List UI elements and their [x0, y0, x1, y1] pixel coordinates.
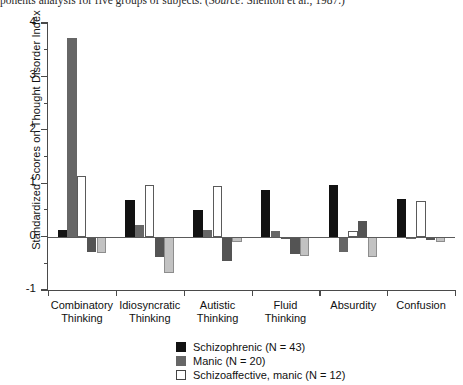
bar: [300, 237, 309, 256]
legend-label: Schizoaffective, manic (N = 12): [193, 369, 345, 381]
bar: [145, 185, 154, 237]
bar: [339, 237, 348, 252]
x-category-label-line: Thinking: [116, 312, 184, 325]
legend-item: Schizoaffective, manic (N = 12): [176, 368, 456, 382]
legend-label: Manic (N = 20): [193, 355, 265, 367]
zero-baseline: [48, 237, 455, 238]
y-tick-mark: [41, 129, 48, 130]
x-category-label-line: Confusion: [387, 299, 455, 312]
x-category-label-line: Thinking: [252, 312, 320, 325]
bar: [261, 190, 270, 237]
x-category-label: CombinatoryThinking: [48, 299, 116, 324]
y-tick-mark: [41, 289, 48, 290]
bar: [155, 237, 164, 257]
bar: [290, 237, 299, 254]
legend-label: Schizophrenic (N = 43): [193, 341, 305, 353]
chart-legend: Schizophrenic (N = 43)Manic (N = 20)Schi…: [176, 340, 456, 382]
x-category-label-line: Autistic: [184, 299, 252, 312]
bar: [213, 186, 222, 237]
bar-chart: Standardized Scores on Thought Disorder …: [0, 14, 463, 314]
legend-swatch: [176, 370, 186, 380]
bar: [193, 210, 202, 237]
legend-item: Manic (N = 20): [176, 354, 456, 368]
x-category-label: IdiosyncraticThinking: [116, 299, 184, 324]
legend-item: Schizophrenic (N = 43): [176, 340, 456, 354]
x-tick-mark: [252, 290, 253, 296]
bar: [87, 237, 96, 252]
bar: [97, 237, 106, 253]
plot-area: [48, 23, 455, 290]
x-category-label-line: Fluid: [252, 299, 320, 312]
bar: [368, 237, 377, 257]
y-tick-label: -1: [4, 282, 36, 294]
x-tick-mark: [184, 290, 185, 296]
x-category-label: Confusion: [387, 299, 455, 312]
legend-swatch: [176, 342, 186, 352]
y-tick-label: 1: [4, 175, 36, 187]
bar: [67, 38, 76, 237]
bar: [164, 237, 173, 273]
figure-caption: ponents analysis for five groups of subj…: [0, 0, 463, 12]
bar: [358, 221, 367, 237]
x-category-label: Absurdity: [319, 299, 387, 312]
x-category-label-line: Thinking: [184, 312, 252, 325]
x-category-label: AutisticThinking: [184, 299, 252, 324]
x-category-label: FluidThinking: [252, 299, 320, 324]
y-tick-mark: [41, 236, 48, 237]
x-tick-mark: [387, 290, 388, 296]
caption-source-word: Source: [209, 0, 241, 6]
x-category-label-line: Absurdity: [319, 299, 387, 312]
bar: [222, 237, 231, 261]
x-tick-mark: [319, 290, 320, 296]
legend-swatch: [176, 356, 186, 366]
x-tick-mark: [455, 290, 456, 296]
caption-text-after: : Shenton et al., 1987.): [240, 0, 344, 6]
bar: [135, 225, 144, 237]
bar: [329, 185, 338, 237]
bar: [77, 176, 86, 236]
y-tick-mark: [41, 22, 48, 23]
y-tick-label: 0: [4, 229, 36, 241]
x-category-label-line: Combinatory: [48, 299, 116, 312]
bar: [397, 199, 406, 236]
bar: [58, 230, 67, 237]
y-tick-mark: [41, 76, 48, 77]
bar: [416, 201, 425, 237]
caption-text-before: ponents analysis for five groups of subj…: [0, 0, 209, 6]
y-tick-label: 3: [4, 68, 36, 80]
x-category-label-line: Idiosyncratic: [116, 299, 184, 312]
x-tick-mark: [48, 290, 49, 296]
x-tick-mark: [116, 290, 117, 296]
bar: [125, 200, 134, 236]
y-tick-label: 4: [4, 15, 36, 27]
x-category-label-line: Thinking: [48, 312, 116, 325]
y-tick-label: 2: [4, 122, 36, 134]
y-tick-mark: [41, 183, 48, 184]
